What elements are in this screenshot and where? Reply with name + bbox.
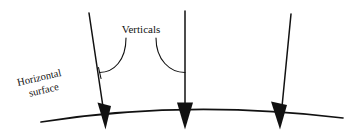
middle-arrowhead-icon [177, 103, 193, 130]
horizontal-surface-label-group: Horizontal surface [16, 67, 65, 101]
horizontal-surface-arc [41, 109, 343, 122]
left-vertical-line [89, 13, 105, 117]
right-arrowhead-icon [271, 102, 287, 130]
left-leader-curve [100, 38, 127, 73]
verticals-label: Verticals [122, 23, 160, 35]
vertical-directions-diagram: Verticals Horizontal surface [0, 0, 358, 138]
diagram-canvas: Verticals Horizontal surface [0, 0, 358, 138]
right-vertical-line [281, 14, 291, 117]
left-arrowhead-icon [98, 103, 112, 130]
right-leader-curve [156, 38, 185, 73]
